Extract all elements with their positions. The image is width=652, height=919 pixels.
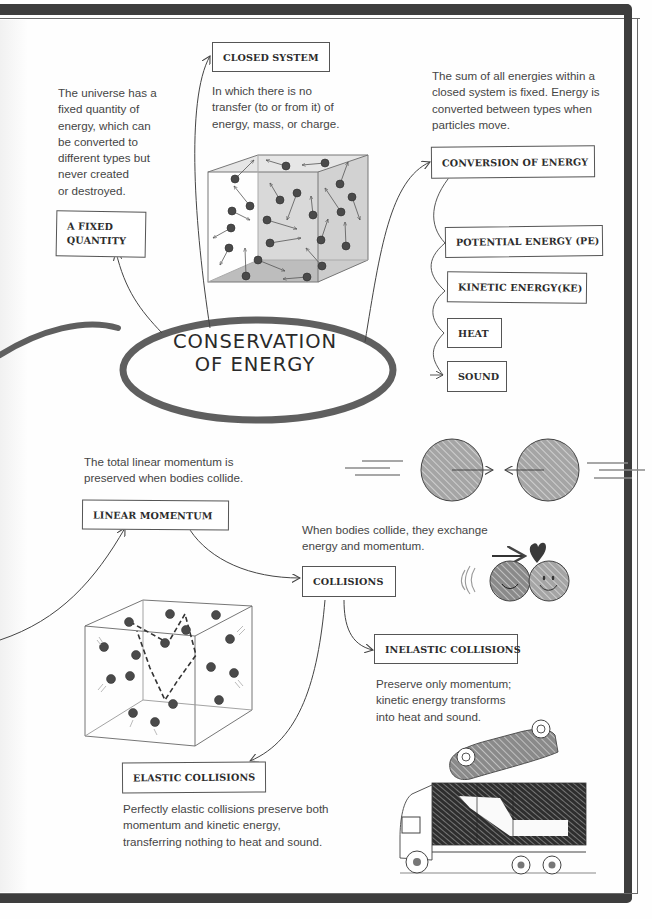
collisions-description: When bodies collide, they exchange energ… <box>302 522 522 555</box>
node-sound[interactable]: SOUND <box>447 361 507 392</box>
central-topic-line2: OF ENERGY <box>150 353 360 376</box>
node-closed-system[interactable]: CLOSED SYSTEM <box>212 42 330 72</box>
car-truck-crash-illustration <box>400 720 596 874</box>
node-kinetic-energy[interactable]: KINETIC ENERGY(KE) <box>447 271 587 303</box>
linear-momentum-description: The total linear momentum is preserved w… <box>84 454 284 487</box>
node-a-fixed-quantity[interactable]: A FIXED QUANTITY <box>56 210 147 258</box>
momentum-cube-illustration <box>85 600 252 746</box>
closed-system-cube-illustration <box>208 155 368 282</box>
node-conversion-of-energy[interactable]: CONVERSION OF ENERGY <box>431 145 595 178</box>
node-elastic-collisions[interactable]: ELASTIC COLLISIONS <box>122 761 266 793</box>
node-heat[interactable]: HEAT <box>447 318 502 348</box>
connector-collisions <box>190 530 300 578</box>
fixed-quantity-description: The universe has a fixed quantity of ene… <box>58 85 198 199</box>
node-linear-momentum[interactable]: LINEAR MOMENTUM <box>82 499 229 530</box>
connector-conversion <box>365 162 430 342</box>
connector-inelastic <box>344 600 373 650</box>
inelastic-description: Preserve only momentum; kinetic energy t… <box>376 676 536 725</box>
node-potential-energy[interactable]: POTENTIAL ENERGY (PE) <box>445 225 603 258</box>
closed-system-description: In which there is no transfer (to or fro… <box>212 83 372 132</box>
colliding-spheres-illustration <box>345 439 645 501</box>
mind-map-page: CONSERVATION OF ENERGY The universe has … <box>0 0 652 919</box>
central-topic: CONSERVATION OF ENERGY <box>150 330 360 376</box>
connector-linear-momentum <box>0 528 125 640</box>
connector-elastic <box>250 600 325 761</box>
node-inelastic-collisions[interactable]: INELASTIC COLLISIONS <box>374 634 518 664</box>
elastic-description: Perfectly elastic collisions preserve bo… <box>123 801 353 850</box>
node-collisions[interactable]: COLLISIONS <box>302 566 396 597</box>
conversion-description: The sum of all energies within a closed … <box>432 68 612 133</box>
connector-fixed-quantity <box>116 252 162 333</box>
central-topic-line1: CONSERVATION <box>150 330 360 353</box>
